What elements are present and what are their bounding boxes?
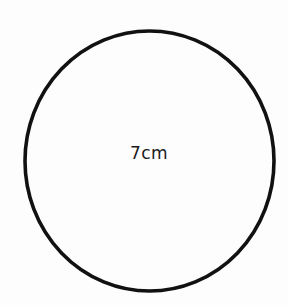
circle-measurement-label: 7cm bbox=[0, 143, 288, 163]
circle-diagram: 7cm bbox=[0, 0, 288, 305]
